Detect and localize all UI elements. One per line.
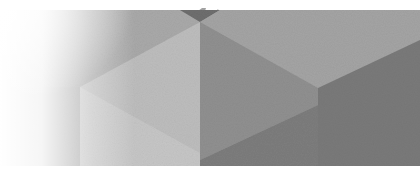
decorative-cube-banner — [0, 10, 420, 166]
corner-fade-overlay — [0, 10, 220, 166]
cube-pattern — [0, 10, 420, 166]
partial-graphic-fragment — [190, 0, 234, 6]
